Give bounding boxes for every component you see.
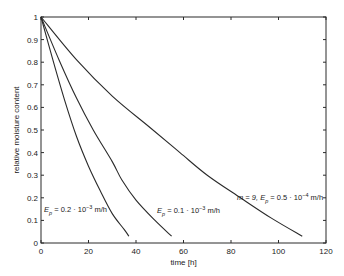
x-tick-label: 0 [39, 247, 44, 256]
x-tick-label: 120 [319, 247, 333, 256]
curve-label-1: Ep = 0.2 · 10−3 m/h [44, 204, 107, 216]
x-tick-label: 100 [272, 247, 286, 256]
x-tick-label: 60 [179, 247, 188, 256]
y-tick-label: 0.1 [27, 216, 39, 225]
curve-label-3: m = 9, Ep = 0.5 · 10−4 m/h [237, 192, 323, 204]
moisture-content-chart: 00.10.20.30.40.50.60.70.80.91 0204060801… [0, 0, 344, 276]
y-tick-label: 0.4 [27, 149, 39, 158]
x-tick-label: 40 [132, 247, 141, 256]
curve-annotations: Ep = 0.2 · 10−3 m/hEp = 0.1 · 10−3 m/hm … [44, 192, 323, 217]
x-axis-label: time [h] [170, 258, 196, 267]
y-tick-label: 0.5 [27, 126, 39, 135]
curve-label-2: Ep = 0.1 · 10−3 m/h [157, 205, 220, 217]
data-series [41, 17, 302, 236]
y-tick-label: 0.2 [27, 194, 39, 203]
y-tick-label: 0.9 [27, 36, 39, 45]
series-line-3 [41, 17, 302, 236]
y-axis-label: relative moisture content [12, 86, 21, 174]
y-tick-label: 1 [34, 13, 39, 22]
y-tick-label: 0.3 [27, 171, 39, 180]
y-tick-label: 0.8 [27, 58, 39, 67]
y-tick-label: 0.6 [27, 103, 39, 112]
x-tick-label: 20 [84, 247, 93, 256]
y-tick-label: 0.7 [27, 81, 39, 90]
x-axis-ticks: 020406080100120 [39, 17, 333, 256]
x-tick-label: 80 [227, 247, 236, 256]
